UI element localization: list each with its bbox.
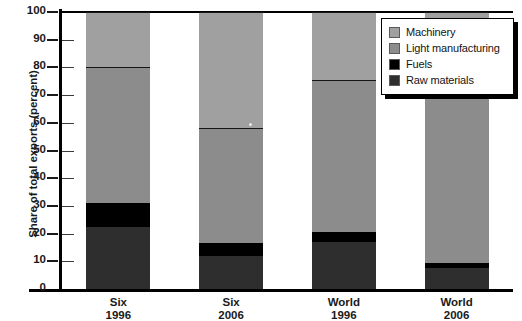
legend-swatch-icon (389, 59, 400, 70)
y-tick-label: 20 (6, 226, 46, 238)
bar-six-2006 (199, 12, 263, 289)
y-tick-mark-outer (47, 260, 58, 262)
bar-segment-fuels (199, 243, 263, 255)
bar-segment-fuels (312, 232, 376, 242)
x-axis-label-line: 1996 (284, 309, 404, 321)
legend-swatch-icon (389, 75, 400, 86)
legend-swatch-icon (389, 43, 400, 54)
chart-legend: MachineryLight manufacturingFuelsRaw mat… (381, 18, 514, 95)
legend-label: Light manufacturing (406, 42, 500, 54)
bar-segment-raw-materials (86, 227, 150, 289)
x-axis-label-line: World (284, 296, 404, 309)
bar-world-1996 (312, 12, 376, 289)
y-tick-mark-outer (47, 39, 58, 41)
y-tick-mark-outer (47, 66, 58, 68)
bar-segment-fuels (86, 203, 150, 227)
y-tick-mark-outer (47, 122, 58, 124)
y-tick-label: 10 (6, 253, 46, 265)
bar-segment-light-manufacturing (425, 95, 489, 263)
y-tick-label: 80 (6, 59, 46, 71)
y-tick-mark-outer (47, 11, 58, 13)
y-tick-mark-outer (47, 150, 58, 152)
x-axis-label-line: World (397, 296, 517, 309)
y-tick-label: 0 (6, 281, 46, 293)
x-axis-line (29, 289, 513, 292)
legend-item-raw-materials: Raw materials (389, 72, 506, 88)
x-axis-label: World2006 (397, 296, 517, 321)
bar-six-1996 (86, 12, 150, 289)
y-tick-label: 50 (6, 143, 46, 155)
x-axis-label: Six1996 (58, 296, 178, 321)
x-axis-label-line: Six (171, 296, 291, 309)
y-tick-label: 40 (6, 170, 46, 182)
bar-segment-light-manufacturing (199, 128, 263, 243)
y-tick-mark-outer (47, 177, 58, 179)
y-tick-label: 90 (6, 32, 46, 44)
y-tick-label: 30 (6, 198, 46, 210)
x-axis-label-line: Six (58, 296, 178, 309)
y-tick-label: 70 (6, 87, 46, 99)
x-axis-label-line: 1996 (58, 309, 178, 321)
bar-segment-raw-materials (312, 242, 376, 289)
legend-label: Machinery (406, 26, 455, 38)
x-axis-label-line: 2006 (397, 309, 517, 321)
legend-item-fuels: Fuels (389, 56, 506, 72)
legend-item-machinery: Machinery (389, 24, 506, 40)
y-tick-label: 60 (6, 115, 46, 127)
stacked-bar-chart: Share of total exports (percent) 1009080… (0, 0, 522, 321)
x-axis-label: Six2006 (171, 296, 291, 321)
y-tick-label: 100 (6, 4, 46, 16)
x-axis-label-line: 2006 (171, 309, 291, 321)
bar-segment-light-manufacturing (312, 80, 376, 232)
legend-swatch-icon (389, 27, 400, 38)
x-axis-label: World1996 (284, 296, 404, 321)
bar-segment-raw-materials (199, 256, 263, 289)
bar-segment-machinery (312, 12, 376, 80)
bar-segment-machinery (86, 12, 150, 67)
bar-segment-raw-materials (425, 268, 489, 289)
y-tick-mark-outer (47, 233, 58, 235)
legend-label: Fuels (406, 58, 432, 70)
y-tick-mark-outer (47, 94, 58, 96)
y-tick-mark-outer (47, 205, 58, 207)
bar-segment-light-manufacturing (86, 67, 150, 203)
bar-segment-machinery (199, 12, 263, 128)
legend-label: Raw materials (406, 74, 474, 86)
legend-item-light-manufacturing: Light manufacturing (389, 40, 506, 56)
